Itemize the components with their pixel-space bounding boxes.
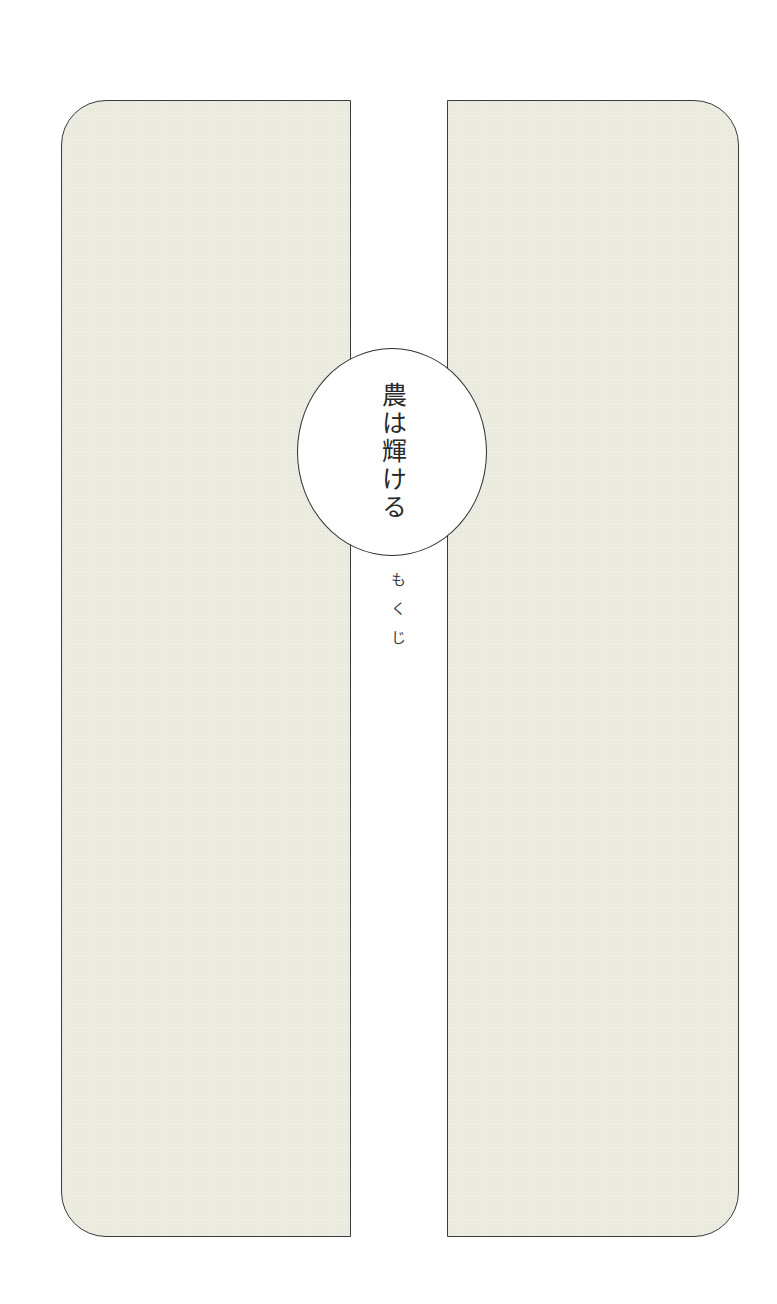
page-title: 農は輝ける xyxy=(380,382,405,522)
title-circle: 農は輝ける xyxy=(297,348,487,556)
table-of-contents-heading: もくじ xyxy=(389,572,404,659)
left-panel xyxy=(61,100,351,1237)
right-panel xyxy=(447,100,739,1237)
